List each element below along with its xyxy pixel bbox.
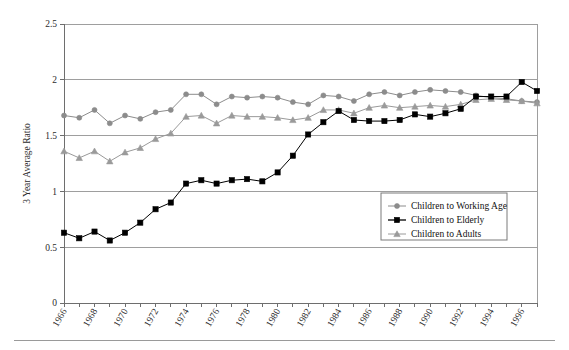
data-point-1979	[260, 179, 265, 184]
data-point-1986	[367, 118, 372, 123]
x-tick-label-1974: 1974	[173, 307, 191, 329]
data-point-1974	[183, 181, 188, 186]
data-point-1966	[61, 230, 66, 235]
data-point-1978	[244, 177, 249, 182]
footer-divider	[14, 340, 555, 341]
legend-marker-circle	[395, 204, 400, 209]
data-point-1976	[214, 181, 219, 186]
x-tick-label-1990: 1990	[417, 307, 435, 329]
data-point-1987	[382, 90, 387, 95]
data-point-1974	[184, 92, 189, 97]
legend-label: Children to Elderly	[411, 215, 485, 225]
data-point-1967	[77, 236, 82, 241]
data-point-1966	[62, 113, 67, 118]
data-point-1969	[107, 121, 112, 126]
x-tick-label-text-1970: 1970	[112, 307, 130, 329]
data-point-1990	[428, 87, 433, 92]
x-tick-label-1996: 1996	[508, 307, 526, 329]
data-point-1984	[336, 108, 341, 113]
x-tick-label-1992: 1992	[447, 307, 465, 329]
data-point-1968	[92, 229, 97, 234]
data-point-1987	[382, 118, 387, 123]
x-tick-label-text-1986: 1986	[356, 307, 374, 329]
data-point-1978	[245, 95, 250, 100]
x-tick-label-1982: 1982	[295, 307, 313, 329]
x-tick-label-text-1968: 1968	[81, 307, 99, 329]
y-tick-label-5: 2.5	[45, 19, 57, 29]
data-point-1976	[214, 102, 219, 107]
data-point-1986	[367, 92, 372, 97]
data-point-1972	[153, 110, 158, 115]
x-tick-label-1972: 1972	[142, 307, 160, 329]
x-tick-label-text-1982: 1982	[295, 307, 313, 329]
chart-legend: Children to Working AgeChildren to Elder…	[381, 193, 507, 240]
data-point-1979	[260, 94, 265, 99]
data-point-1994	[489, 94, 494, 99]
data-point-1988	[397, 117, 402, 122]
data-point-1970	[122, 230, 127, 235]
data-point-1980	[275, 95, 280, 100]
x-tick-label-1980: 1980	[264, 307, 282, 329]
data-point-1992	[458, 106, 463, 111]
data-point-1996	[519, 79, 524, 84]
y-tick-label-2: 1	[52, 187, 57, 197]
data-point-1981	[290, 153, 295, 158]
y-tick-label-3: 1.5	[45, 131, 57, 141]
x-tick-label-text-1974: 1974	[173, 307, 191, 329]
plot-background	[64, 24, 537, 303]
x-tick-label-1978: 1978	[234, 307, 252, 329]
x-tick-label-text-1990: 1990	[417, 307, 435, 329]
y-tick-label-1: 0.5	[45, 243, 57, 253]
y-axis-title: 3 Year Average Ratio	[22, 123, 32, 204]
x-tick-label-1970: 1970	[112, 307, 130, 329]
data-point-1969	[107, 238, 112, 243]
x-tick-label-1988: 1988	[386, 307, 404, 329]
data-point-1983	[321, 120, 326, 125]
data-point-1981	[290, 100, 295, 105]
data-point-1984	[336, 94, 341, 99]
x-tick-label-1986: 1986	[356, 307, 374, 329]
x-tick-label-1994: 1994	[478, 307, 496, 329]
data-point-1972	[153, 207, 158, 212]
x-tick-label-text-1980: 1980	[264, 307, 282, 329]
data-point-1975	[199, 92, 204, 97]
data-point-1989	[412, 90, 417, 95]
data-point-1995	[504, 94, 509, 99]
data-point-1975	[199, 178, 204, 183]
data-point-1973	[168, 107, 173, 112]
chart-canvas: 00.511.522.53 Year Average Ratio19661968…	[0, 0, 569, 350]
x-tick-label-text-1996: 1996	[508, 307, 526, 329]
x-tick-label-1976: 1976	[203, 307, 221, 329]
y-axis-title-text: 3 Year Average Ratio	[22, 123, 32, 204]
data-point-1971	[138, 220, 143, 225]
data-point-1988	[397, 93, 402, 98]
x-tick-label-text-1972: 1972	[142, 307, 160, 329]
x-tick-label-text-1976: 1976	[203, 307, 221, 329]
data-point-1971	[138, 116, 143, 121]
chart-figure: 00.511.522.53 Year Average Ratio19661968…	[0, 0, 569, 350]
x-tick-label-text-1988: 1988	[386, 307, 404, 329]
data-point-1985	[351, 117, 356, 122]
x-tick-label-text-1984: 1984	[325, 307, 343, 329]
x-tick-label-text-1978: 1978	[234, 307, 252, 329]
x-tick-label-1984: 1984	[325, 307, 343, 329]
data-point-1973	[168, 200, 173, 205]
data-point-1977	[229, 94, 234, 99]
data-point-1985	[351, 99, 356, 104]
data-point-1970	[123, 113, 128, 118]
data-point-1992	[458, 90, 463, 95]
data-point-1982	[306, 102, 311, 107]
legend-marker-square	[394, 217, 399, 222]
data-point-1993	[473, 94, 478, 99]
y-tick-label-4: 2	[52, 75, 57, 85]
y-tick-label-0: 0	[52, 298, 57, 308]
data-point-1982	[306, 132, 311, 137]
data-point-1990	[428, 114, 433, 119]
x-tick-label-1968: 1968	[81, 307, 99, 329]
data-point-1997	[534, 88, 539, 93]
legend-label: Children to Adults	[411, 229, 482, 239]
data-point-1967	[77, 115, 82, 120]
data-point-1968	[92, 107, 97, 112]
legend-label: Children to Working Age	[411, 201, 507, 211]
data-point-1980	[275, 170, 280, 175]
